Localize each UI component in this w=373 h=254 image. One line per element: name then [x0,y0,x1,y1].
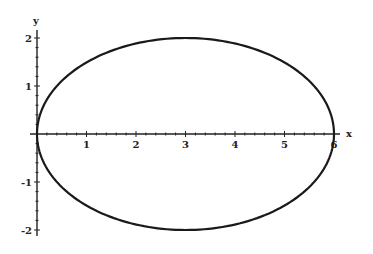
x-tick-label: 2 [133,139,140,150]
y-tick-label: 1 [25,81,32,92]
y-tick-label: -2 [21,225,32,236]
y-tick-label: 2 [25,33,32,44]
x-tick-label: 4 [232,139,239,150]
x-tick-label: 5 [281,139,288,150]
x-tick-label: 1 [83,139,90,150]
x-axis-label: x [346,128,353,139]
x-tick-label: 3 [182,139,189,150]
ellipse-plot: 123456-2-112 x y [0,0,373,254]
y-axis-label: y [32,15,40,26]
y-tick-label: -1 [21,177,32,188]
